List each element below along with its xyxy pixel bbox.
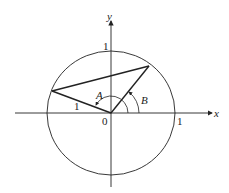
origin-label: 0 [102,115,108,127]
x-axis-label: x [213,107,219,119]
angle-b-label: B [141,94,148,106]
y-tick-one-label: 1 [103,40,109,52]
chord [52,66,149,91]
y-axis-label: y [106,10,112,22]
unit-circle-diagram: y x 1 1 0 1 A B [0,0,229,193]
x-tick-one-label: 1 [177,115,183,127]
segment-length-label: 1 [74,100,80,112]
angle-a-label: A [95,89,103,101]
angle-b-arc [129,92,139,113]
